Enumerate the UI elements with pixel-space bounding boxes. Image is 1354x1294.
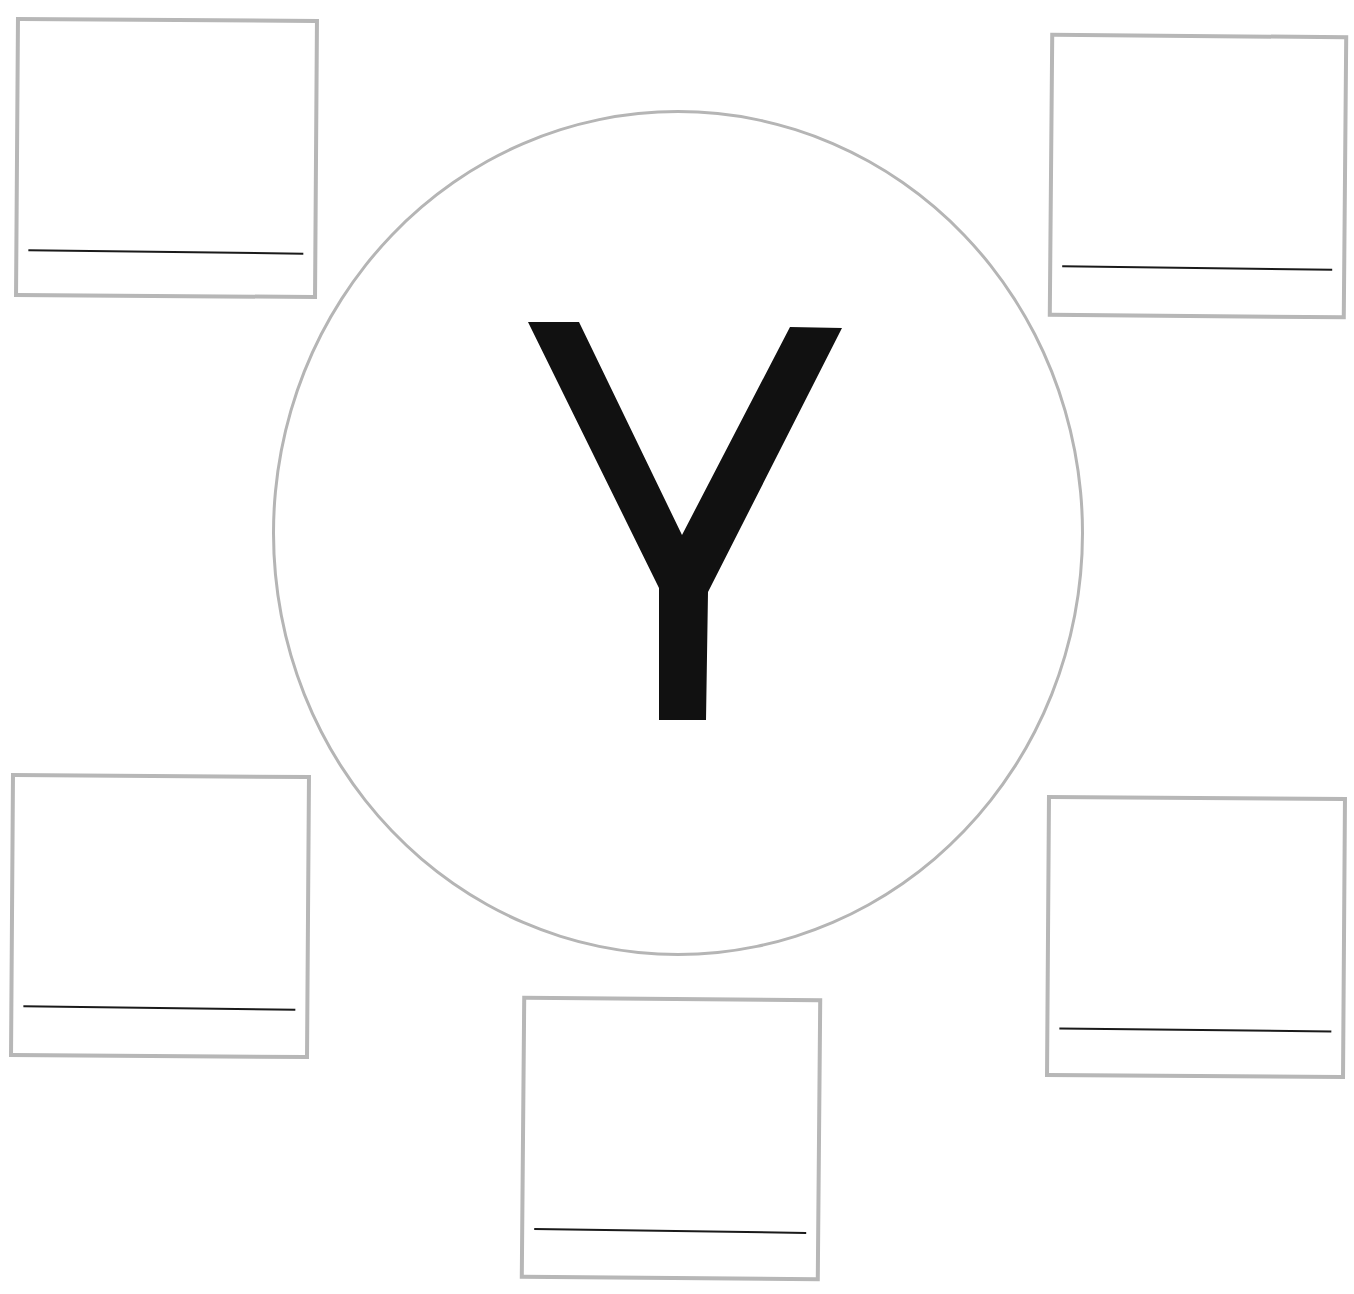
picture-box-bottom-center[interactable]	[520, 996, 822, 1282]
picture-box-bottom-left[interactable]	[9, 773, 311, 1059]
box-answer	[15, 777, 16, 778]
letter-text: Y	[0, 0, 1, 1]
write-line[interactable]	[28, 249, 303, 254]
write-line[interactable]	[534, 1228, 806, 1234]
write-line[interactable]	[23, 1005, 295, 1010]
picture-box-bottom-right[interactable]	[1045, 795, 1347, 1079]
box-answer	[1051, 799, 1052, 800]
letter-y-glyph	[528, 322, 842, 722]
box-answer	[1054, 37, 1055, 38]
letter-worksheet: Y	[0, 0, 1354, 1294]
write-line[interactable]	[1059, 1028, 1331, 1033]
write-line[interactable]	[1062, 265, 1332, 270]
picture-box-top-right[interactable]	[1048, 33, 1348, 320]
picture-box-top-left[interactable]	[14, 17, 319, 299]
box-answer	[526, 1000, 527, 1001]
box-answer	[20, 21, 21, 22]
